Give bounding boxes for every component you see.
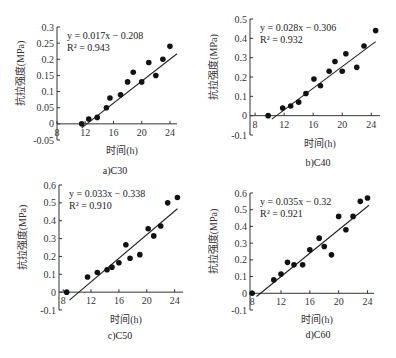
x-tick-label: 20 <box>334 296 344 307</box>
y-tick-label: 0.05 <box>37 102 55 113</box>
y-axis-label: 抗拉强度(MPa) <box>14 41 27 107</box>
y-tick-label: 0.2 <box>42 54 55 65</box>
x-tick-label: 12 <box>80 127 90 138</box>
y-tick-label: 0.1 <box>235 91 248 102</box>
x-axis-label: 时间(h) <box>304 137 336 150</box>
data-point <box>350 214 356 220</box>
x-tick-label: 20 <box>337 119 347 130</box>
data-point <box>373 28 379 34</box>
data-point <box>296 99 302 105</box>
x-axis-label: 时间(h) <box>301 313 333 326</box>
x-axis-label: 时间(h) <box>106 144 138 157</box>
y-tick-label: 0.4 <box>44 215 57 226</box>
data-point <box>104 267 110 273</box>
y-tick-label: 0 <box>242 110 247 121</box>
panel-caption: c)C50 <box>108 330 132 342</box>
x-tick-label: 24 <box>363 296 373 307</box>
y-axis-label: 抗拉强度(MPa) <box>207 209 220 275</box>
data-point <box>127 255 133 261</box>
data-point <box>158 223 164 229</box>
data-point <box>285 260 291 266</box>
data-point <box>146 60 152 66</box>
data-point <box>303 91 309 97</box>
x-axis-label: 时间(h) <box>110 313 142 326</box>
y-tick-label: 0.3 <box>235 52 248 63</box>
chart-panel-b-c40: -0.100.10.20.30.40.5812162024y = 0.028x … <box>207 14 380 170</box>
data-point <box>365 195 371 201</box>
data-point <box>358 199 364 205</box>
data-point <box>175 195 181 201</box>
data-point <box>307 247 313 253</box>
y-tick-label: 0.4 <box>235 221 248 232</box>
x-tick-label: 24 <box>366 119 376 130</box>
y-tick-label: 0.25 <box>37 38 55 49</box>
r-squared: R² = 0.910 <box>69 200 112 211</box>
data-point <box>265 113 271 119</box>
data-point <box>343 51 349 57</box>
data-point <box>300 262 306 268</box>
y-tick-label: -0.05 <box>33 135 54 146</box>
y-tick-label: 0.6 <box>44 180 57 191</box>
data-point <box>336 214 342 220</box>
x-tick-label: 16 <box>308 119 318 130</box>
y-tick-label: 0.4 <box>235 33 248 44</box>
data-point <box>167 44 173 50</box>
x-tick-label: 16 <box>305 296 315 307</box>
data-point <box>85 274 91 280</box>
data-point <box>86 116 92 122</box>
data-point <box>326 68 332 74</box>
data-point <box>249 290 255 296</box>
y-tick-label: 0.15 <box>37 70 55 81</box>
y-tick-label: 0.3 <box>235 238 248 249</box>
y-tick-label: 0.6 <box>235 188 248 199</box>
data-point <box>361 43 367 49</box>
r-squared: R² = 0.932 <box>260 34 303 45</box>
y-axis-label: 抗拉强度(MPa) <box>16 205 29 271</box>
data-point <box>165 200 171 206</box>
data-point <box>288 103 294 109</box>
data-point <box>160 56 166 62</box>
data-point <box>107 95 113 101</box>
y-tick-label: 0 <box>49 118 54 129</box>
y-tick-label: -0.1 <box>231 305 247 316</box>
data-point <box>130 69 136 75</box>
data-point <box>145 226 151 232</box>
panel-caption: a)C30 <box>103 165 127 177</box>
data-point <box>118 92 124 98</box>
chart-panel-a-c30: -0.0500.050.10.150.20.250.3812162024y = … <box>14 22 177 178</box>
y-tick-label: -0.1 <box>40 305 56 316</box>
data-point <box>311 76 317 82</box>
y-tick-label: 0.1 <box>42 86 55 97</box>
data-point <box>116 260 122 266</box>
data-point <box>280 105 286 111</box>
data-point <box>64 289 70 295</box>
regression-equation: y = 0.033x − 0.338 <box>69 188 145 199</box>
regression-line <box>69 209 177 300</box>
x-tick-label: 12 <box>276 296 286 307</box>
y-tick-label: 0.1 <box>44 269 57 280</box>
x-tick-label: 12 <box>86 295 96 306</box>
data-point <box>278 271 284 277</box>
regression-equation: y = 0.017x − 0.208 <box>67 30 143 41</box>
data-point <box>321 244 327 250</box>
x-tick-label: 12 <box>279 119 289 130</box>
x-tick-label: 24 <box>170 295 180 306</box>
x-tick-label: 24 <box>165 127 175 138</box>
regression-equation: y = 0.035x − 0.32 <box>260 196 331 207</box>
chart-panel-c-c50: -0.100.10.20.30.40.50.6812162024y = 0.03… <box>16 180 183 343</box>
panel-caption: d)C60 <box>306 329 331 341</box>
data-point <box>271 277 277 283</box>
y-tick-label: 0.2 <box>235 254 248 265</box>
data-point <box>79 121 85 127</box>
data-point <box>151 233 157 239</box>
y-tick-label: 0.3 <box>44 233 57 244</box>
x-tick-label: 20 <box>137 127 147 138</box>
data-point <box>354 65 360 71</box>
data-point <box>316 235 322 241</box>
chart-panel-d-c60: -0.100.10.20.30.40.50.6812162024y = 0.03… <box>207 188 374 342</box>
data-point <box>318 83 324 89</box>
panel-caption: b)C40 <box>306 157 331 169</box>
y-tick-label: 0.1 <box>235 271 248 282</box>
data-point <box>123 242 129 248</box>
y-tick-label: 0 <box>51 287 56 298</box>
